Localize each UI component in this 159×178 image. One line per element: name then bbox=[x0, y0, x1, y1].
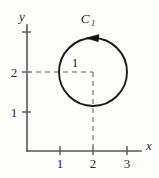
y-tick-label-2: 2 bbox=[11, 65, 18, 80]
y-tick-label-1: 1 bbox=[11, 105, 18, 120]
y-axis-label: y bbox=[17, 9, 25, 24]
arrow-head-icon bbox=[86, 35, 99, 42]
curve-label-subscript: 1 bbox=[91, 18, 95, 28]
radius-label: 1 bbox=[72, 55, 79, 70]
diagram-canvas: y x 2 1 1 2 3 C 1 1 bbox=[0, 0, 159, 178]
x-tick-label-3: 3 bbox=[124, 156, 131, 171]
x-axis-label: x bbox=[145, 138, 152, 153]
figure-container: y x 2 1 1 2 3 C 1 1 bbox=[0, 0, 159, 178]
x-tick-label-2: 2 bbox=[90, 156, 97, 171]
curve-label-c: C bbox=[81, 11, 90, 26]
x-tick-label-1: 1 bbox=[57, 156, 64, 171]
